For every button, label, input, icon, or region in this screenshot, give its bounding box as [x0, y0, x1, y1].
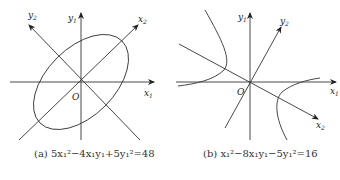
label-x2: x2 [316, 120, 325, 131]
label-y2: y2 [279, 16, 289, 27]
caption-a: (a) 5x₁²−4x₁y₁+5y₁²=48 [34, 148, 155, 159]
label-y1: y1 [67, 13, 77, 24]
label-x2: x2 [138, 14, 147, 25]
label-y1: y1 [237, 12, 247, 23]
caption-b: (b) x₁²−8x₁y₁−5y₁²=16 [203, 148, 318, 159]
label-x1: x1 [330, 86, 339, 97]
label-origin: O [237, 87, 245, 97]
panel-a-diagram: x1 y1 x2 y2 O [10, 10, 154, 147]
x2-axis [179, 44, 318, 119]
label-x1: x1 [144, 88, 153, 99]
x2-axis [19, 25, 138, 140]
hyperbola-branch-left [178, 10, 227, 86]
y2-axis [225, 27, 281, 128]
label-origin: O [72, 92, 80, 102]
label-y2: y2 [27, 10, 37, 21]
panel-b-diagram: x1 y1 x2 y2 O [176, 10, 339, 140]
hyperbola-branch-right [277, 78, 320, 140]
